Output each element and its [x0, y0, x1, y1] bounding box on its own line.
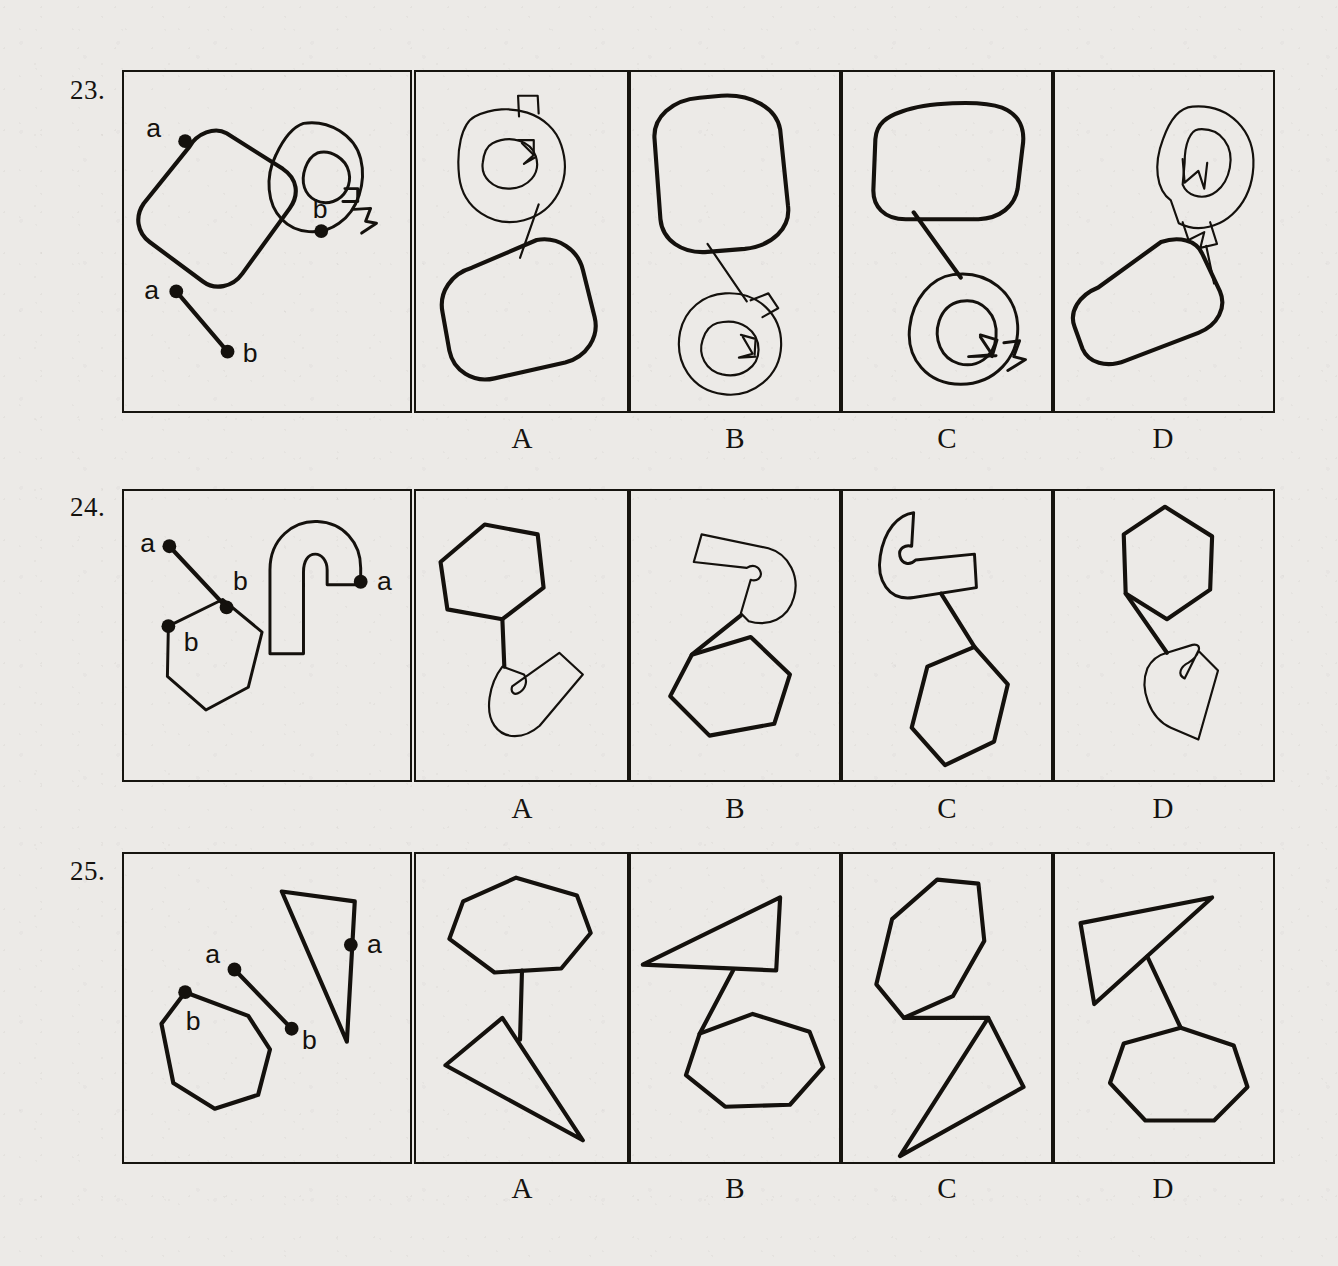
q23-B-rounded-square	[654, 96, 788, 253]
q23-option-C-label: C	[917, 422, 977, 455]
q23-prompt-dot-b-q	[314, 224, 328, 238]
q23-C-q-shape	[909, 274, 1025, 384]
q25-label-a-triangle: a	[367, 929, 382, 959]
q25-label-b-segment: b	[302, 1025, 317, 1055]
q24-prompt-hook	[270, 522, 361, 654]
q23-C-connector	[914, 212, 961, 277]
q25-B-heptagon	[686, 1014, 823, 1107]
q24-option-B-panel[interactable]	[629, 489, 841, 782]
q25-D-triangle	[1081, 897, 1213, 1004]
q24-prompt-dot-b-hexagon	[161, 619, 175, 633]
q23-option-B-label: B	[705, 422, 765, 455]
q24-prompt-hexagon	[167, 599, 262, 709]
q25-prompt-dot-b-heptagon	[178, 985, 192, 999]
q25-prompt-heptagon	[161, 992, 269, 1108]
q24-B-hook	[694, 534, 796, 623]
q23-option-D-label: D	[1133, 422, 1193, 455]
q23-option-A-panel[interactable]	[414, 70, 629, 413]
q25-option-C-panel[interactable]	[841, 852, 1053, 1164]
q24-option-C-panel[interactable]	[841, 489, 1053, 782]
question-number-24: 24.	[70, 492, 105, 523]
q25-D-heptagon	[1110, 1028, 1247, 1121]
q25-option-D-label: D	[1133, 1172, 1193, 1205]
q23-B-q-shape	[679, 293, 781, 394]
q24-option-D-panel[interactable]	[1053, 489, 1275, 782]
q23-prompt-panel: a b a b	[122, 70, 412, 413]
q24-C-hook	[880, 513, 977, 598]
q25-prompt-segment	[234, 970, 291, 1029]
question-number-25: 25.	[70, 856, 105, 887]
q25-option-B-label: B	[705, 1172, 765, 1205]
q25-prompt-panel: a a b b	[122, 852, 412, 1164]
q25-option-A-panel[interactable]	[414, 852, 629, 1164]
q23-A-q-shape	[458, 96, 564, 222]
q25-prompt-dot-a-segment	[228, 963, 242, 977]
q23-prompt-dot-a-square	[178, 134, 192, 148]
q25-A-heptagon	[449, 878, 590, 973]
question-number-23: 23.	[70, 75, 105, 106]
q25-option-D-panel[interactable]	[1053, 852, 1275, 1164]
q24-A-hexagon	[441, 525, 544, 620]
q23-C-rounded-square	[873, 103, 1023, 219]
q23-prompt-dot-a-segment	[169, 284, 183, 298]
q23-label-b-q: b	[313, 194, 328, 224]
q25-prompt-dot-b-segment	[285, 1022, 299, 1036]
q25-option-A-label: A	[492, 1172, 552, 1205]
q24-C-connector	[941, 594, 974, 647]
q24-label-b-hexagon: b	[184, 627, 199, 657]
q23-prompt-rounded-square	[138, 131, 295, 287]
q23-D-q-shape	[1157, 106, 1253, 248]
q24-D-hook	[1145, 645, 1218, 740]
q24-D-connector	[1126, 594, 1167, 653]
q23-D-rounded-square	[1073, 239, 1222, 364]
q24-D-hexagon	[1124, 507, 1212, 619]
q24-prompt-dot-a-segment	[162, 539, 176, 553]
q24-A-connector	[502, 619, 504, 666]
q23-option-D-panel[interactable]	[1053, 70, 1275, 413]
q23-prompt-dot-b-segment	[221, 345, 235, 359]
q25-option-B-panel[interactable]	[629, 852, 841, 1164]
q24-B-hexagon	[670, 637, 790, 736]
q24-label-a-hook: a	[377, 566, 392, 596]
q23-option-B-panel[interactable]	[629, 70, 841, 413]
q23-label-b-segment: b	[243, 338, 258, 368]
q24-option-C-label: C	[917, 792, 977, 825]
q25-prompt-triangle	[282, 892, 355, 1042]
q25-prompt-dot-a-triangle	[344, 938, 358, 952]
q24-option-D-label: D	[1133, 792, 1193, 825]
q23-prompt-segment	[176, 291, 227, 351]
q24-prompt-panel: a b a b	[122, 489, 412, 782]
q25-label-b-heptagon: b	[186, 1006, 201, 1036]
q24-option-B-label: B	[705, 792, 765, 825]
q24-prompt-segment	[169, 546, 226, 607]
q25-D-connector	[1147, 957, 1180, 1028]
q24-option-A-panel[interactable]	[414, 489, 629, 782]
q23-label-a-square: a	[146, 113, 161, 143]
q23-option-A-label: A	[492, 422, 552, 455]
q23-option-C-panel[interactable]	[841, 70, 1053, 413]
q25-C-heptagon	[876, 880, 984, 1018]
q25-A-connector	[520, 970, 522, 1039]
q25-option-C-label: C	[917, 1172, 977, 1205]
q24-C-hexagon	[912, 647, 1008, 765]
q25-C-triangle	[900, 1018, 1024, 1156]
q24-option-A-label: A	[492, 792, 552, 825]
q25-B-triangle	[643, 897, 780, 970]
q25-label-a-segment: a	[205, 939, 220, 969]
q23-A-rounded-square	[442, 239, 596, 379]
q24-label-a-segment: a	[140, 528, 155, 558]
q23-A-connector	[520, 204, 539, 257]
q24-prompt-dot-a-hook	[354, 575, 368, 589]
q24-label-b-segment: b	[233, 566, 248, 596]
q25-A-triangle	[445, 1018, 582, 1140]
q23-label-a-segment: a	[144, 275, 159, 305]
